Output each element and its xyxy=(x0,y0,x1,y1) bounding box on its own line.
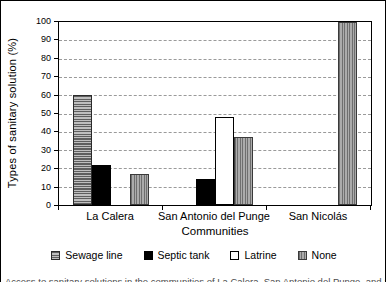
bar-none-1 xyxy=(234,137,253,205)
bar-group-0 xyxy=(59,22,163,205)
legend-item-septic-tank: Septic tank xyxy=(144,249,210,261)
category-label-1: San Antonio del Punge xyxy=(158,210,270,222)
x-axis-title: Communities xyxy=(181,225,248,237)
y-tick-label-80: 80 xyxy=(23,53,51,63)
legend-label: Latrine xyxy=(244,249,276,261)
clipped-caption: Access to sanitary solutions in the comm… xyxy=(5,276,385,282)
plot-area xyxy=(58,21,372,206)
legend-label: Sewage line xyxy=(65,249,122,261)
legend-label: None xyxy=(312,249,337,261)
y-tick-label-60: 60 xyxy=(23,90,51,100)
legend-item-none: None xyxy=(298,249,337,261)
y-tick-label-10: 10 xyxy=(23,182,51,192)
legend-item-latrine: Latrine xyxy=(230,249,276,261)
bar-latrine-1 xyxy=(215,117,234,205)
bar-group-1 xyxy=(163,22,267,205)
legend-swatch-none xyxy=(298,251,307,260)
bar-chart-figure: Types of sanitary solution (%) 010203040… xyxy=(0,0,386,282)
y-tick-label-30: 30 xyxy=(23,145,51,155)
legend-swatch-septic-tank xyxy=(144,251,153,260)
bar-none-0 xyxy=(130,174,149,205)
y-tick-label-40: 40 xyxy=(23,126,51,136)
y-tick-label-100: 100 xyxy=(23,16,51,26)
x-tick-mark-3 xyxy=(370,206,371,210)
legend-swatch-sewage-line xyxy=(51,251,60,260)
bar-group-2 xyxy=(267,22,371,205)
bar-septic-tank-1 xyxy=(196,179,215,205)
bar-none-2 xyxy=(338,22,357,205)
category-label-0: La Calera xyxy=(86,210,134,222)
legend-label: Septic tank xyxy=(158,249,210,261)
y-tick-label-90: 90 xyxy=(23,34,51,44)
y-tick-label-70: 70 xyxy=(23,71,51,81)
bar-septic-tank-0 xyxy=(92,165,111,205)
y-axis-title: Types of sanitary solution (%) xyxy=(6,38,18,188)
y-tick-label-20: 20 xyxy=(23,163,51,173)
legend-item-sewage-line: Sewage line xyxy=(51,249,122,261)
category-label-2: San Nicolás xyxy=(289,210,348,222)
y-tick-label-0: 0 xyxy=(23,200,51,210)
legend-swatch-latrine xyxy=(230,251,239,260)
x-tick-mark-0 xyxy=(58,206,59,210)
y-tick-label-50: 50 xyxy=(23,108,51,118)
chart-legend: Sewage lineSeptic tankLatrineNone xyxy=(1,249,386,261)
bar-sewage-line-0 xyxy=(73,95,92,205)
